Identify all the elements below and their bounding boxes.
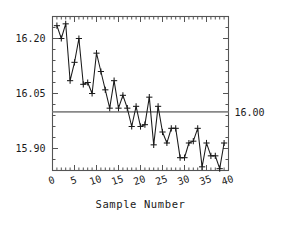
y-axis-tick-labels: 15.9016.0516.20 bbox=[15, 33, 45, 154]
x-axis-tick-label: 0 bbox=[47, 174, 56, 186]
y-axis-tick-label: 16.20 bbox=[15, 33, 45, 44]
x-axis-tick-label: 15 bbox=[110, 173, 125, 187]
data-line-series bbox=[57, 24, 224, 169]
chart-container: 15.9016.0516.20051015202530354016.00Samp… bbox=[0, 0, 288, 229]
line-chart: 15.9016.0516.20051015202530354016.00Samp… bbox=[0, 0, 288, 229]
reference-line-label: 16.00 bbox=[235, 107, 265, 118]
x-axis-tick-label: 10 bbox=[88, 173, 103, 187]
x-axis-tick-label: 40 bbox=[220, 173, 235, 187]
y-axis-tick-label: 15.90 bbox=[15, 143, 45, 154]
y-axis-tick-label: 16.05 bbox=[15, 88, 45, 99]
x-axis-title: Sample Number bbox=[96, 198, 186, 210]
x-axis-tick-label: 5 bbox=[69, 174, 78, 186]
x-axis-tick-label: 20 bbox=[132, 173, 147, 187]
x-axis-tick-label: 30 bbox=[176, 173, 191, 187]
x-axis-tick-label: 25 bbox=[154, 173, 169, 187]
x-axis-tick-labels: 0510152025303540 bbox=[47, 173, 235, 187]
x-axis-tick-label: 35 bbox=[198, 173, 213, 187]
